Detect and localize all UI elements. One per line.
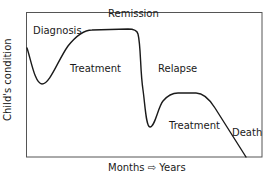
label-remission: Remission: [108, 9, 159, 19]
label-death: Death: [232, 128, 262, 138]
x-axis-label: Months ⇨ Years: [108, 163, 186, 173]
label-treatment-2: Treatment: [169, 121, 220, 131]
label-treatment-1: Treatment: [70, 64, 121, 74]
condition-curve: [27, 29, 246, 157]
label-relapse: Relapse: [158, 64, 197, 74]
y-axis-label: Child's condition: [3, 38, 13, 121]
label-diagnosis: Diagnosis: [33, 26, 82, 36]
